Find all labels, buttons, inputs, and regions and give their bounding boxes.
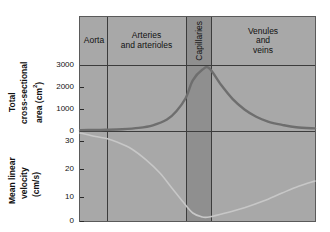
top-axis-title-line2: cross-sectional <box>20 34 30 152</box>
top-axis-title: Total <box>8 52 18 152</box>
total-cross-sectional-area-curve <box>80 67 315 130</box>
y-axis-column: Total cross-sectional area (cm2) Mean li… <box>0 16 79 222</box>
curves-overlay <box>80 17 315 221</box>
figure-container: Total cross-sectional area (cm2) Mean li… <box>0 0 330 232</box>
bottom-axis-title-line1: Mean linear <box>8 144 18 218</box>
bottom-axis-title-line2: velocity <box>20 152 30 214</box>
mean-linear-velocity-curve <box>80 133 315 218</box>
tickmark-bottom-0 <box>80 221 84 222</box>
bottom-axis-title-line3: (cm/s) <box>32 156 42 212</box>
plot-area: Aorta Arteriesand arterioles Capillaries… <box>79 16 316 222</box>
top-axis-title-line3: area (cm2) <box>32 48 45 156</box>
